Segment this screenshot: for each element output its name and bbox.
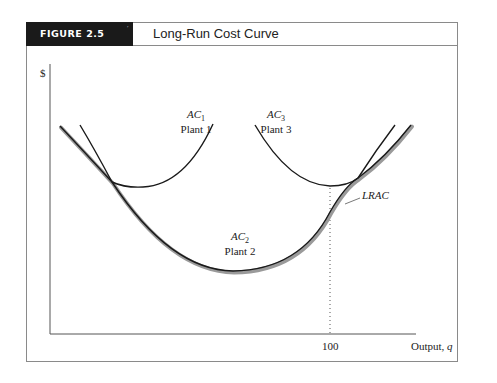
x-tick-100: 100 <box>322 340 339 352</box>
lrac-leader-line <box>345 198 360 204</box>
ac1-label: AC1 Plant 1 <box>176 108 216 135</box>
ac2-label: AC2 Plant 2 <box>220 230 260 257</box>
y-axis-label: $ <box>40 67 46 79</box>
lrac-label: LRAC <box>362 189 389 201</box>
x-axis-label: Output, q <box>411 340 453 352</box>
ac3-label: AC3 Plant 3 <box>256 108 296 135</box>
cost-curve-chart <box>0 0 497 383</box>
